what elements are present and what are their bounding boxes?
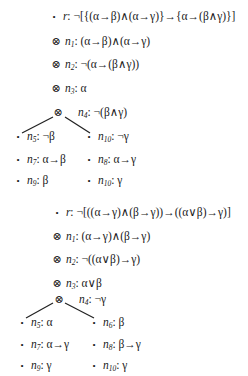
tree1-node-n1: ⊗ n1: (α→β)∧(α→γ) bbox=[50, 34, 150, 52]
tree1-node-n8: • n8: α→γ bbox=[83, 152, 136, 170]
node-formula: α→γ bbox=[46, 338, 69, 350]
tree1-node-n10: • n10: γ bbox=[83, 173, 122, 191]
node-subscript: 5 bbox=[37, 321, 41, 330]
bullet-icon: • bbox=[12, 153, 24, 167]
node-formula: α bbox=[46, 316, 52, 328]
tree2-node-n6: • n6: β bbox=[88, 315, 124, 333]
bullet-icon: • bbox=[83, 130, 95, 144]
node-subscript: 5 bbox=[33, 135, 37, 144]
bullet-icon: • bbox=[16, 316, 28, 330]
tree2-node-n7: • n7: α→γ bbox=[16, 337, 69, 355]
tree1-node-n6: • n10: ¬γ bbox=[83, 129, 129, 147]
node-formula: β bbox=[118, 316, 124, 328]
node-label: r bbox=[63, 10, 67, 22]
bullet-icon: • bbox=[51, 206, 63, 220]
node-subscript: 1 bbox=[72, 235, 76, 244]
bullet-icon: • bbox=[12, 130, 24, 144]
node-formula: ¬[((α→γ)∧(β→γ))→((α∨β)→γ)] bbox=[76, 206, 230, 218]
tree1-node-n3: ⊗ n3: α bbox=[50, 81, 86, 99]
node-formula: γ bbox=[46, 359, 51, 371]
bullet-icon: • bbox=[12, 174, 24, 188]
tree2-node-n8: • n8: β→γ bbox=[88, 337, 141, 355]
closed-node-icon: ⊗ bbox=[53, 292, 65, 306]
node-label: n9 bbox=[27, 174, 37, 186]
node-label: n4 bbox=[78, 106, 88, 118]
node-label: n7 bbox=[27, 153, 37, 165]
node-label: n2 bbox=[66, 253, 76, 265]
tree1-node-n7: • n7: α→β bbox=[12, 152, 66, 170]
node-subscript: 2 bbox=[71, 63, 75, 72]
tree1-node-n2: ⊗ n2: ¬(α→(β∧γ)) bbox=[50, 57, 139, 75]
bullet-icon: • bbox=[48, 10, 60, 24]
node-subscript: 9 bbox=[33, 179, 37, 188]
node-formula: ¬β bbox=[42, 130, 54, 142]
bullet-icon: • bbox=[88, 338, 100, 352]
node-formula: α→β bbox=[42, 153, 65, 165]
node-formula: ¬((α∨β)→γ) bbox=[81, 253, 140, 265]
node-label: n6 bbox=[103, 316, 113, 328]
node-subscript: 7 bbox=[33, 158, 37, 167]
node-subscript: 8 bbox=[104, 158, 108, 167]
node-subscript: 9 bbox=[37, 364, 41, 373]
node-formula: ¬[{(α→β)∧(α→γ)}→{α→(β∧γ)}] bbox=[73, 10, 235, 22]
node-formula: ¬(α→(β∧γ)) bbox=[80, 58, 139, 70]
node-subscript: 4 bbox=[85, 298, 89, 307]
tree1-node-n5: • n5: ¬β bbox=[12, 129, 55, 147]
node-label: n3 bbox=[66, 277, 76, 289]
node-subscript: 3 bbox=[71, 87, 75, 96]
node-name: r bbox=[63, 10, 67, 22]
node-formula: (α→β)∧(α→γ) bbox=[80, 35, 150, 47]
node-formula: γ bbox=[117, 174, 122, 186]
node-label: n8 bbox=[98, 153, 108, 165]
node-label: n1 bbox=[65, 35, 75, 47]
bullet-icon: • bbox=[88, 359, 100, 373]
tree1-node-r: • r: ¬[{(α→β)∧(α→γ)}→{α→(β∧γ)}] bbox=[48, 9, 235, 24]
bullet-icon: • bbox=[83, 174, 95, 188]
node-label: n10 bbox=[98, 130, 111, 142]
bullet-icon: • bbox=[88, 316, 100, 330]
node-subscript: 10 bbox=[104, 135, 112, 144]
node-label: n7 bbox=[31, 338, 41, 350]
closed-node-icon: ⊗ bbox=[50, 34, 62, 48]
tree2-node-n10: • n10: γ bbox=[88, 358, 127, 376]
node-subscript: 8 bbox=[109, 343, 113, 352]
node-label: n5 bbox=[27, 130, 37, 142]
node-label: n8 bbox=[103, 338, 113, 350]
tree2-node-n5: • n5: α bbox=[16, 315, 52, 333]
node-formula: (α→γ)∧(β→γ) bbox=[81, 230, 150, 242]
node-label: n5 bbox=[31, 316, 41, 328]
closed-node-icon: ⊗ bbox=[51, 252, 63, 266]
tree1-node-n9: • n9: β bbox=[12, 173, 48, 191]
node-subscript: 7 bbox=[37, 343, 41, 352]
node-label: n10 bbox=[98, 174, 111, 186]
node-formula: α→γ bbox=[113, 153, 136, 165]
node-subscript: 10 bbox=[109, 364, 117, 373]
tree2-node-n2: ⊗ n2: ¬((α∨β)→γ) bbox=[51, 252, 140, 270]
node-subscript: 2 bbox=[72, 258, 76, 267]
closed-node-icon: ⊗ bbox=[51, 276, 63, 290]
tree2-node-n1: ⊗ n1: (α→γ)∧(β→γ) bbox=[51, 229, 150, 247]
node-formula: ¬γ bbox=[117, 130, 129, 142]
node-formula: ¬γ bbox=[95, 293, 107, 305]
node-subscript: 3 bbox=[72, 282, 76, 291]
node-formula: γ bbox=[122, 359, 127, 371]
node-formula: ¬(β∧γ) bbox=[94, 106, 128, 118]
node-label: n10 bbox=[103, 359, 116, 371]
node-subscript: 4 bbox=[84, 111, 88, 120]
node-formula: α bbox=[80, 82, 86, 94]
node-label: r bbox=[66, 206, 70, 218]
node-label: n4 bbox=[79, 293, 89, 305]
bullet-icon: • bbox=[83, 153, 95, 167]
node-subscript: 10 bbox=[104, 179, 112, 188]
node-label: n1 bbox=[66, 230, 76, 242]
closed-node-icon: ⊗ bbox=[50, 57, 62, 71]
closed-node-icon: ⊗ bbox=[52, 105, 64, 119]
node-formula: β bbox=[42, 174, 48, 186]
tree2-node-r: • r: ¬[((α→γ)∧(β→γ))→((α∨β)→γ)] bbox=[51, 205, 231, 220]
node-subscript: 6 bbox=[109, 321, 113, 330]
node-subscript: 1 bbox=[71, 40, 75, 49]
tree2-node-n4: ⊗n4: ¬γ bbox=[53, 292, 106, 310]
bullet-icon: • bbox=[16, 359, 28, 373]
bullet-icon: • bbox=[16, 338, 28, 352]
closed-node-icon: ⊗ bbox=[51, 229, 63, 243]
